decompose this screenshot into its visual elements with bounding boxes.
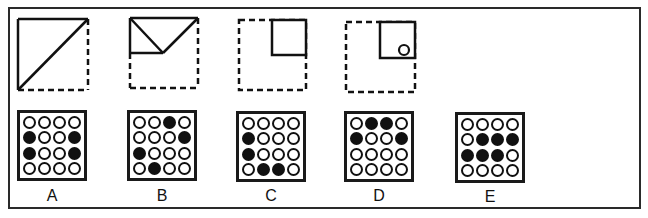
empty-circle [380,132,393,145]
filled-circle [133,147,146,160]
option-grid-d[interactable] [344,111,414,182]
filled-circle [380,117,393,130]
empty-circle [350,148,363,161]
option-grid-a[interactable] [17,110,87,181]
filled-circle [506,133,519,146]
empty-circle [38,116,51,129]
empty-circle [506,118,519,131]
empty-circle [380,163,393,176]
filled-circle [491,133,504,146]
filled-circle [395,132,408,145]
option-label-d: D [364,187,394,205]
empty-circle [148,131,161,144]
puzzle-frame [8,7,641,209]
empty-circle [68,116,81,129]
empty-circle [38,147,51,160]
empty-circle [163,131,176,144]
filled-circle [476,133,489,146]
filled-circle [365,117,378,130]
empty-circle [476,164,489,177]
empty-circle [506,164,519,177]
filled-circle [178,131,191,144]
filled-circle [148,162,161,175]
empty-circle [38,131,51,144]
filled-circle [272,163,285,176]
empty-circle [272,132,285,145]
empty-circle [178,162,191,175]
empty-circle [68,162,81,175]
empty-circle [257,117,270,130]
empty-circle [287,148,300,161]
filled-circle [23,131,36,144]
empty-circle [380,148,393,161]
empty-circle [395,163,408,176]
empty-circle [395,117,408,130]
filled-circle [68,147,81,160]
filled-circle [242,132,255,145]
filled-circle [68,131,81,144]
option-grid-c[interactable] [236,111,306,182]
option-label-b: B [147,187,177,205]
option-label-c: C [256,187,286,205]
filled-circle [461,149,474,162]
empty-circle [506,149,519,162]
filled-circle [242,148,255,161]
empty-circle [365,163,378,176]
filled-circle [350,132,363,145]
figure-4 [342,18,422,98]
empty-circle [287,163,300,176]
empty-circle [365,148,378,161]
empty-circle [242,117,255,130]
empty-circle [257,148,270,161]
filled-circle [23,147,36,160]
empty-circle [23,162,36,175]
empty-circle [148,116,161,129]
empty-circle [23,116,36,129]
empty-circle [272,117,285,130]
empty-circle [53,162,66,175]
empty-circle [287,117,300,130]
empty-circle [350,163,363,176]
empty-circle [133,116,146,129]
option-grid-b[interactable] [127,110,197,181]
empty-circle [257,132,270,145]
empty-circle [133,162,146,175]
empty-circle [461,133,474,146]
figure-3 [235,16,315,96]
empty-circle [53,131,66,144]
empty-circle [133,131,146,144]
empty-circle [491,164,504,177]
filled-circle [163,116,176,129]
empty-circle [53,116,66,129]
empty-circle [461,118,474,131]
empty-circle [287,132,300,145]
option-label-a: A [37,187,67,205]
figure-2 [126,14,206,94]
empty-circle [491,118,504,131]
option-grid-e[interactable] [455,112,525,183]
empty-circle [242,163,255,176]
empty-circle [272,148,285,161]
figure-1 [14,15,94,95]
empty-circle [178,116,191,129]
empty-circle [365,132,378,145]
empty-circle [178,147,191,160]
empty-circle [461,164,474,177]
filled-circle [257,163,270,176]
empty-circle [163,147,176,160]
empty-circle [38,162,51,175]
filled-circle [491,149,504,162]
filled-circle [476,149,489,162]
empty-circle [163,162,176,175]
option-label-e: E [475,188,505,206]
empty-circle [395,148,408,161]
empty-circle [350,117,363,130]
empty-circle [53,147,66,160]
empty-circle [476,118,489,131]
empty-circle [148,147,161,160]
